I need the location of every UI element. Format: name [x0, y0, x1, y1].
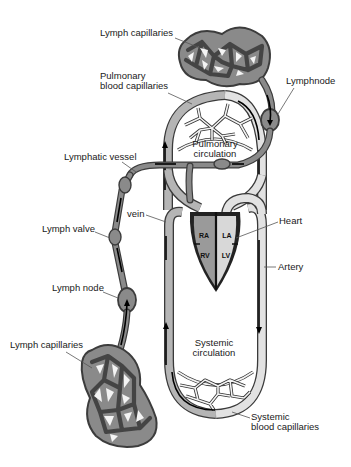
heart-chamber-rv: RV — [200, 252, 210, 259]
heart-chamber-la: LA — [222, 232, 231, 239]
label-systemic-circulation-2: circulation — [193, 347, 236, 358]
heart: RA LA RV LV — [190, 212, 241, 292]
lymph-valve-lower — [109, 229, 121, 245]
pulmonary-lymph-valve — [214, 159, 230, 169]
upper-lymph-capillary-network — [179, 27, 270, 86]
lower-lymph-capillary-network — [82, 345, 157, 447]
label-lymphatic-vessel: Lymphatic vessel — [64, 151, 137, 162]
heart-chamber-ra: RA — [199, 232, 209, 239]
label-artery: Artery — [278, 261, 304, 272]
label-pulmonary-capillaries-2: blood capillaries — [100, 80, 168, 91]
label-lymph-node-top: Lymphnode — [286, 75, 335, 86]
circulatory-lymphatic-diagram: RA LA RV LV — [0, 0, 351, 467]
label-systemic-capillaries-2: blood capillaries — [251, 421, 319, 432]
label-lymph-capillaries-top: Lymph capillaries — [100, 27, 173, 38]
label-lymph-capillaries-bottom: Lymph capillaries — [10, 339, 83, 350]
label-pulmonary-circulation-2: circulation — [194, 148, 237, 159]
label-lymph-valve: Lymph valve — [42, 223, 95, 234]
lymph-valve-upper — [119, 177, 131, 193]
label-lymph-node-bottom: Lymph node — [52, 282, 104, 293]
label-heart: Heart — [279, 215, 303, 226]
heart-chamber-lv: LV — [222, 252, 231, 259]
label-vein: vein — [127, 208, 144, 219]
